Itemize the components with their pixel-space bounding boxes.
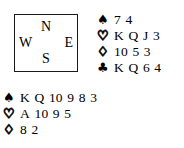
card-rank: 8: [79, 90, 90, 106]
card-rank: 3: [144, 44, 151, 60]
card-rank: A: [20, 106, 34, 122]
diamond-suit-icon: ♢: [97, 44, 111, 60]
compass-label-east: E: [64, 36, 73, 50]
suit-ranks: KQ10983: [17, 90, 97, 106]
hand-north: ♠74♡KQJ3♢1053♣KQ64: [97, 12, 161, 76]
card-rank: 5: [64, 106, 71, 122]
club-suit-icon: ♣: [97, 60, 111, 76]
card-rank: 2: [31, 122, 38, 138]
compass-label-west: W: [19, 36, 32, 50]
suit-row-diamond: ♢1053: [97, 44, 161, 60]
card-rank: 8: [20, 122, 31, 138]
card-rank: 5: [132, 44, 143, 60]
card-rank: Q: [128, 60, 142, 76]
card-rank: 4: [154, 60, 161, 76]
diamond-suit-icon: ♢: [3, 122, 17, 138]
card-rank: 3: [90, 90, 97, 106]
card-rank: 9: [67, 90, 78, 106]
suit-ranks: 1053: [111, 44, 151, 60]
card-rank: 6: [143, 60, 154, 76]
compass-box: N W E S: [14, 14, 78, 72]
heart-suit-icon: ♡: [3, 106, 17, 122]
suit-row-diamond: ♢82: [3, 122, 97, 138]
suit-row-spade: ♠74: [97, 12, 161, 28]
hand-south: ♠KQ10983♡A1095♢82: [3, 90, 97, 138]
card-rank: 10: [114, 44, 132, 60]
card-rank: 10: [34, 106, 52, 122]
spade-suit-icon: ♠: [3, 90, 17, 106]
card-rank: 4: [125, 12, 132, 28]
suit-row-heart: ♡KQJ3: [97, 28, 161, 44]
card-rank: J: [143, 28, 153, 44]
suit-row-spade: ♠KQ10983: [3, 90, 97, 106]
compass-label-south: S: [15, 52, 77, 66]
suit-ranks: KQ64: [111, 60, 161, 76]
suit-row-club: ♣KQ64: [97, 60, 161, 76]
suit-ranks: 82: [17, 122, 38, 138]
card-rank: 3: [153, 28, 160, 44]
card-rank: 7: [114, 12, 125, 28]
card-rank: 10: [49, 90, 67, 106]
card-rank: K: [114, 60, 128, 76]
card-rank: K: [114, 28, 128, 44]
card-rank: Q: [34, 90, 48, 106]
suit-ranks: 74: [111, 12, 132, 28]
heart-suit-icon: ♡: [97, 28, 111, 44]
suit-row-heart: ♡A1095: [3, 106, 97, 122]
suit-ranks: KQJ3: [111, 28, 160, 44]
card-rank: Q: [128, 28, 142, 44]
compass-label-north: N: [15, 20, 77, 34]
card-rank: K: [20, 90, 34, 106]
spade-suit-icon: ♠: [97, 12, 111, 28]
suit-ranks: A1095: [17, 106, 71, 122]
card-rank: 9: [53, 106, 64, 122]
